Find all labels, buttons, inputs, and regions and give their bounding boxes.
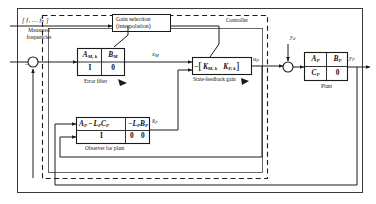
measured-frequencies-caption-line2: frequencies <box>16 35 62 41</box>
signal-yp-label: yP <box>349 55 355 63</box>
measured-frequencies-caption-line1: Measured <box>16 28 62 34</box>
signal-xm-label: xM <box>152 51 159 59</box>
observer-identity-term: I <box>79 132 124 140</box>
observer-a-minus-lc-term: AP−LPCP <box>79 120 109 128</box>
error-filter-a-term: AM, k <box>79 51 101 59</box>
error-filter-b-term: BM <box>102 51 124 59</box>
summing-junction-minus-sign: − <box>25 62 29 69</box>
control-block-diagram: [ f₁ … fₙ ] Measured frequencies Gain se… <box>0 0 376 204</box>
gain-selection-line1: Gain selection <box>116 16 151 22</box>
measured-frequencies-symbol: [ f₁ … fₙ ] <box>22 17 49 24</box>
state-feedback-leader-arrow <box>241 78 249 85</box>
signal-xhat-p-label: x̂P <box>152 118 158 126</box>
controller-boundary <box>43 16 268 179</box>
plant-c-term: CP <box>305 69 326 77</box>
observer-zero-term-2: 0 <box>141 132 145 140</box>
state-feedback-caption: State-feedback gain <box>193 77 236 83</box>
observer-b-term: BP <box>140 120 148 128</box>
error-summing-junction <box>28 57 38 67</box>
observer-zero-term-1: 0 <box>130 132 134 140</box>
error-filter-identity-term: I <box>79 64 101 72</box>
plant-a-term: AP <box>305 55 326 63</box>
figure-border <box>18 9 363 193</box>
state-feedback-expression: −[KM, kKP, k] <box>194 60 239 72</box>
controller-label: Controller <box>226 18 248 24</box>
plant-zero-term: 0 <box>327 69 348 77</box>
signal-yd-label: yd <box>290 34 295 42</box>
gain-selection-line2: (interpolation) <box>116 23 151 29</box>
observer-caption: Observer for plant <box>85 146 125 152</box>
plant-b-term: BP <box>327 55 348 63</box>
observer-minus-l-term: −LP <box>128 120 140 128</box>
error-filter-zero-term: 0 <box>102 64 124 72</box>
plant-caption: Plant <box>305 84 348 90</box>
disturbance-summing-junction <box>283 62 293 72</box>
error-filter-caption: Error filter <box>84 79 107 85</box>
error-filter-leader-arrow <box>118 79 127 86</box>
signal-up-label: uP <box>253 56 259 64</box>
